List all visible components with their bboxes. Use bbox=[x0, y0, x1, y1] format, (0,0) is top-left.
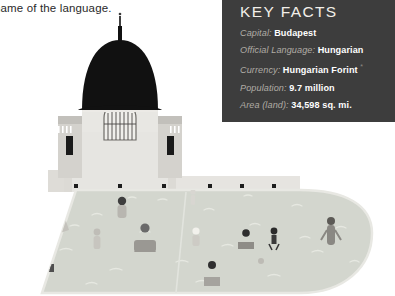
fact-label: Population: bbox=[240, 83, 287, 93]
fact-row-area: Area (land): 34,598 sq. mi. bbox=[240, 101, 385, 110]
dome bbox=[82, 40, 158, 110]
spire-finial bbox=[119, 13, 122, 16]
footnote-marker: * bbox=[360, 63, 363, 70]
fact-label: Capital: bbox=[240, 28, 272, 38]
key-facts-panel: KEY FACTS Capital: Budapest Official Lan… bbox=[222, 0, 395, 122]
left-tower-window bbox=[66, 136, 73, 155]
fact-value: Budapest bbox=[274, 28, 316, 38]
fact-row-population: Population: 9.7 million bbox=[240, 84, 385, 93]
pool-float bbox=[258, 258, 264, 264]
right-tower-cornice bbox=[158, 116, 182, 124]
bather-figure bbox=[40, 246, 54, 272]
fact-label: Official Language: bbox=[240, 45, 315, 55]
bather-figure bbox=[192, 227, 199, 246]
fact-row-currency: Currency: Hungarian Forint * bbox=[240, 63, 385, 75]
fact-value: Hungarian bbox=[318, 45, 364, 55]
fact-row-official-language: Official Language: Hungarian bbox=[240, 46, 385, 55]
bather-figure bbox=[40, 200, 46, 221]
fact-row-capital: Capital: Budapest bbox=[240, 29, 385, 38]
dome-spire bbox=[119, 16, 121, 28]
right-tower-window bbox=[167, 136, 174, 155]
fact-value: 9.7 million bbox=[289, 83, 335, 93]
bather-figure bbox=[118, 197, 127, 218]
key-facts-title: KEY FACTS bbox=[240, 4, 385, 20]
dome-lantern bbox=[118, 26, 122, 42]
left-tower-cornice bbox=[58, 116, 82, 124]
fact-value: Hungarian Forint bbox=[283, 66, 358, 76]
fact-label: Area (land): bbox=[240, 100, 289, 110]
bather-figure bbox=[190, 189, 195, 205]
fact-value: 34,598 sq. mi. bbox=[291, 100, 352, 110]
bather-figure bbox=[94, 229, 101, 249]
fact-label: Currency: bbox=[240, 66, 280, 76]
